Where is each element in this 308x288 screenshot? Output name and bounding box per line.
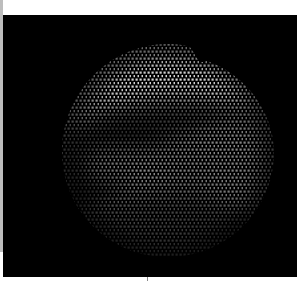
scale-tick-mark (147, 277, 148, 281)
field-of-view (58, 40, 278, 265)
endoscope-view (3, 15, 297, 277)
endoscope-frame (3, 15, 297, 277)
